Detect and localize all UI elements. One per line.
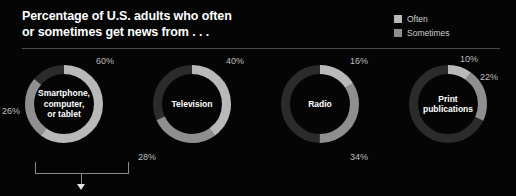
header-divider: [22, 48, 500, 49]
pct-label-sometimes: 28%: [138, 152, 156, 163]
title-line-1: Percentage of U.S. adults who often: [22, 8, 322, 24]
legend-swatch-sometimes: [394, 29, 402, 37]
donut-svg: [150, 62, 234, 146]
pct-label-often: 60%: [96, 56, 114, 67]
legend-swatch-often: [394, 15, 402, 23]
donut-ring: Radio: [278, 62, 362, 146]
pct-label-sometimes: 34%: [350, 152, 368, 163]
donut-ring: Smartphone, computer, or tablet: [22, 62, 106, 146]
callout-bracket: [35, 162, 129, 174]
donut-chart-3: Radio16%34%: [256, 54, 384, 174]
donut-chart-4: Print publications10%22%: [384, 54, 512, 174]
donut-ring: Television: [150, 62, 234, 146]
pct-label-sometimes: 22%: [480, 72, 498, 83]
legend-label-sometimes: Sometimes: [407, 28, 450, 38]
legend: Often Sometimes: [394, 13, 450, 38]
donut-ring: Print publications: [406, 62, 490, 146]
donut-svg: [406, 62, 490, 146]
donut-chart-1: Smartphone, computer, or tablet60%26%: [0, 54, 128, 174]
legend-label-often: Often: [407, 14, 428, 24]
donut-svg: [22, 62, 106, 146]
callout-arrow-icon: [77, 184, 85, 190]
legend-item-often: Often: [394, 13, 450, 24]
pct-label-often: 40%: [226, 56, 244, 67]
pct-label-often: 10%: [460, 54, 478, 65]
infographic-canvas: Percentage of U.S. adults who often or s…: [0, 0, 516, 196]
title-line-2: or sometimes get news from . . .: [22, 24, 322, 40]
legend-item-sometimes: Sometimes: [394, 27, 450, 38]
donut-svg: [278, 62, 362, 146]
donut-chart-row: Smartphone, computer, or tablet60%26%Tel…: [0, 54, 516, 174]
page-title: Percentage of U.S. adults who often or s…: [22, 8, 322, 40]
donut-chart-2: Television40%28%: [128, 54, 256, 174]
pct-label-sometimes: 26%: [2, 106, 20, 117]
pct-label-often: 16%: [350, 56, 368, 67]
